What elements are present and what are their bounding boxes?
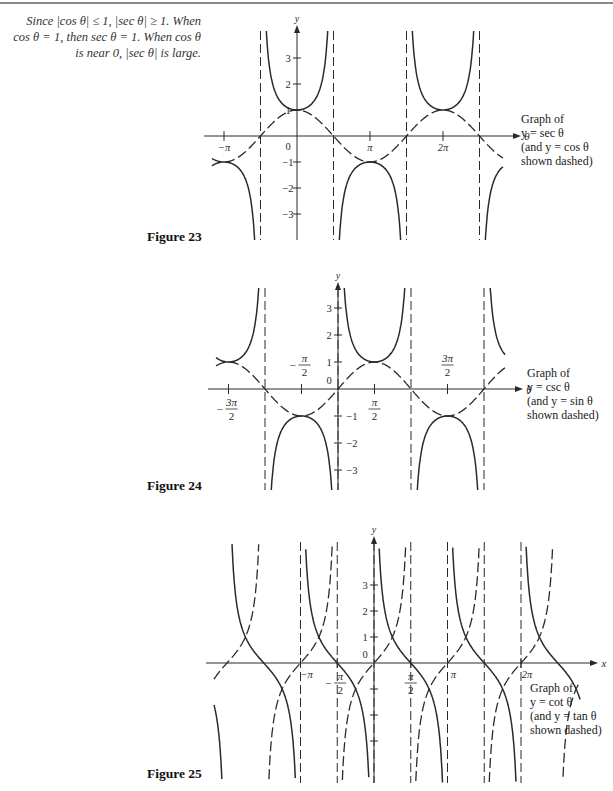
svg-text:2: 2 [372,410,378,422]
svg-text:3: 3 [362,580,367,591]
svg-text:y: y [335,270,341,281]
caption-line: Graph of [530,681,602,695]
chart-24: θy321−1−2−303π2−π2−π23π2 [208,265,532,512]
svg-text:π: π [337,670,343,682]
chart-25: xy3210−ππ2−π2π2π [206,524,607,783]
svg-text:−2: −2 [346,438,357,449]
svg-text:0: 0 [285,141,290,152]
svg-text:π: π [451,669,457,680]
y-axis-arrow-icon [335,282,341,290]
svg-text:−: − [216,403,222,415]
caption-line: shown dashed) [530,723,602,737]
svg-text:2π: 2π [522,669,533,680]
svg-text:3: 3 [285,53,290,64]
figure-25-label: Figure 25 [147,766,202,782]
svg-text:2: 2 [302,366,308,378]
svg-text:0: 0 [326,375,331,386]
y-axis-arrow-icon [371,536,377,544]
svg-text:2: 2 [362,606,367,617]
svg-text:−2: −2 [282,183,293,194]
svg-text:2: 2 [285,79,290,90]
svg-text:y: y [294,13,300,24]
caption-line: y = sec θ [521,126,593,140]
x-axis-arrow-icon [513,133,521,139]
chart-23: θy321−1−2−30−ππ2π [204,13,530,255]
caption-line: y = csc θ [527,380,599,394]
x-axis-arrow-icon [590,660,598,666]
svg-text:2: 2 [408,684,414,696]
figure-23-caption: Graph of y = sec θ (and y = cos θ shown … [521,112,593,168]
caption-line: (and y = tan θ [530,709,602,723]
caption-line: (and y = cos θ [521,140,593,154]
svg-text:−1: −1 [282,157,293,168]
svg-text:π: π [302,352,308,364]
svg-text:3: 3 [326,303,331,314]
x-axis-arrow-icon [515,386,523,392]
caption-line: Graph of [527,366,599,380]
svg-text:2: 2 [338,684,344,696]
svg-text:π: π [372,396,378,408]
svg-text:2π: 2π [438,142,449,153]
figure-24-caption: Graph of y = csc θ (and y = sin θ shown … [527,366,599,422]
svg-text:2: 2 [445,366,451,378]
figure-23-label: Figure 23 [147,229,202,245]
csc-curve [216,265,505,512]
svg-text:π: π [408,670,414,682]
caption-line: (and y = sin θ [527,394,599,408]
svg-text:2: 2 [326,330,331,341]
svg-text:1: 1 [326,357,331,368]
svg-text:−: − [325,677,331,689]
svg-text:y: y [371,524,377,535]
caption-line: y = cot θ [530,695,602,709]
svg-text:x: x [601,657,607,669]
svg-text:−3: −3 [282,209,293,220]
svg-text:−3: −3 [346,465,357,476]
svg-text:2: 2 [229,410,235,422]
caption-line: Graph of [521,112,593,126]
svg-text:−π: −π [300,669,313,680]
svg-text:−1: −1 [346,411,357,422]
y-axis-arrow-icon [294,25,300,33]
caption-line: shown dashed) [527,408,599,422]
svg-text:−: − [289,359,295,371]
svg-text:−π: −π [218,142,231,153]
svg-text:1: 1 [362,632,367,643]
figure-25-caption: Graph of y = cot θ (and y = tan θ shown … [530,681,602,737]
svg-text:π: π [367,142,373,153]
svg-text:0: 0 [362,649,367,660]
svg-text:3π: 3π [225,396,238,408]
svg-text:3π: 3π [441,352,454,364]
figure-24-label: Figure 24 [147,478,202,494]
caption-line: shown dashed) [521,154,593,168]
